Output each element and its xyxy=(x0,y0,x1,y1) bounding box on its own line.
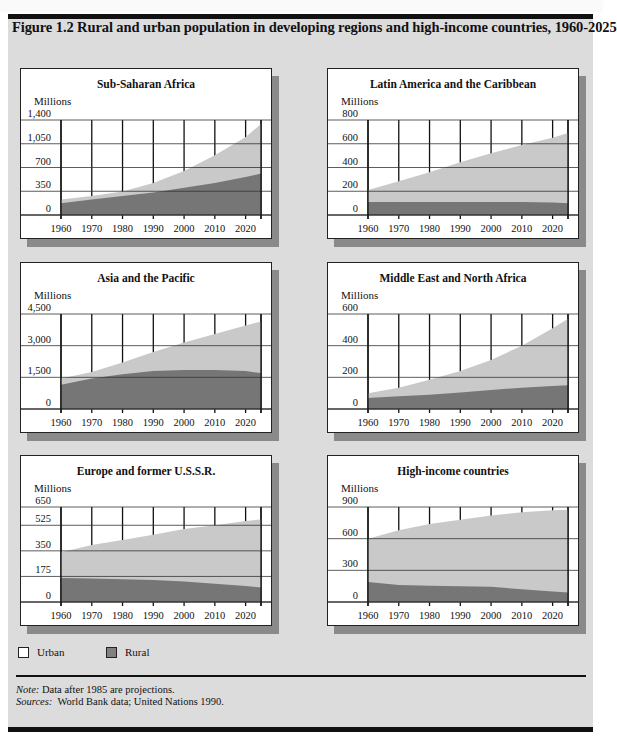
figure-title: Figure 1.2 Rural and urban population in… xyxy=(12,19,617,36)
y-tick-label: 200 xyxy=(342,365,358,376)
x-tick-label: 1980 xyxy=(419,223,440,234)
y-tick-label: 175 xyxy=(35,564,51,575)
sources-line: Sources: World Bank data; United Nations… xyxy=(16,696,224,708)
y-tick-label: 350 xyxy=(35,539,51,550)
x-tick-label: 2000 xyxy=(481,417,502,428)
x-tick-label: 2000 xyxy=(481,223,502,234)
x-tick-label: 2020 xyxy=(542,610,563,621)
x-tick-label: 2010 xyxy=(511,610,532,621)
chart-title: Sub-Saharan Africa xyxy=(21,78,271,90)
y-tick-label: 0 xyxy=(353,397,358,408)
x-tick-label: 2000 xyxy=(174,417,195,428)
sources-text: World Bank data; United Nations 1990. xyxy=(52,696,224,707)
rural-area xyxy=(368,202,568,215)
urban-swatch-icon xyxy=(18,647,29,658)
x-tick-label: 1960 xyxy=(51,610,72,621)
legend-label: Urban xyxy=(37,646,65,658)
y-tick-label: 600 xyxy=(342,302,358,313)
y-tick-label: 300 xyxy=(342,558,358,569)
x-tick-label: 2000 xyxy=(174,610,195,621)
x-tick-label: 1960 xyxy=(358,417,379,428)
y-axis-label: Millions xyxy=(34,482,71,494)
y-tick-label: 0 xyxy=(46,590,51,601)
x-tick-label: 1970 xyxy=(388,223,409,234)
x-tick-label: 1990 xyxy=(143,417,164,428)
x-tick-label: 2020 xyxy=(235,223,256,234)
x-tick-label: 1960 xyxy=(358,610,379,621)
x-tick-label: 1960 xyxy=(51,223,72,234)
sources-label: Sources: xyxy=(16,696,52,707)
legend-label: Rural xyxy=(125,646,149,658)
x-tick-label: 2020 xyxy=(542,417,563,428)
y-tick-label: 200 xyxy=(342,179,358,190)
chart-panel-middle-east-north-africa: 02004006001960197019801990200020102020 M… xyxy=(327,262,579,433)
y-axis-label: Millions xyxy=(341,95,378,107)
x-tick-label: 2010 xyxy=(511,417,532,428)
chart-panel-europe-ussr: 0175350525650196019701980199020002010202… xyxy=(20,455,272,626)
x-tick-label: 1990 xyxy=(450,417,471,428)
x-tick-label: 1990 xyxy=(450,610,471,621)
chart-panel-sub-saharan-africa: 03507001,0501,40019601970198019902000201… xyxy=(20,68,272,239)
note-label: Note: xyxy=(16,684,39,695)
chart-panel-high-income: 03006009001960197019801990200020102020 H… xyxy=(327,455,579,626)
footnote: Note: Data after 1985 are projections. S… xyxy=(16,684,224,708)
x-tick-label: 1980 xyxy=(112,610,133,621)
y-tick-label: 600 xyxy=(342,527,358,538)
x-tick-label: 2010 xyxy=(204,223,225,234)
y-tick-label: 1,500 xyxy=(27,365,51,376)
y-tick-label: 700 xyxy=(35,156,51,167)
y-tick-label: 0 xyxy=(46,203,51,214)
x-tick-label: 2000 xyxy=(174,223,195,234)
x-tick-label: 1970 xyxy=(81,610,102,621)
y-tick-label: 1,050 xyxy=(27,132,51,143)
page-top-margin xyxy=(0,0,603,12)
y-axis-label: Millions xyxy=(34,289,71,301)
x-tick-label: 1970 xyxy=(81,417,102,428)
x-tick-label: 2010 xyxy=(204,417,225,428)
chart-title: Latin America and the Caribbean xyxy=(328,78,578,90)
chart-title: Europe and former U.S.S.R. xyxy=(21,465,271,477)
y-tick-label: 600 xyxy=(342,132,358,143)
y-axis-label: Millions xyxy=(341,289,378,301)
y-tick-label: 0 xyxy=(46,397,51,408)
rural-swatch-icon xyxy=(106,647,117,658)
x-tick-label: 1970 xyxy=(388,610,409,621)
x-tick-label: 2020 xyxy=(235,417,256,428)
divider xyxy=(16,675,586,677)
y-axis-label: Millions xyxy=(34,95,71,107)
y-tick-label: 350 xyxy=(35,179,51,190)
x-tick-label: 1990 xyxy=(143,223,164,234)
y-tick-label: 0 xyxy=(353,203,358,214)
y-tick-label: 4,500 xyxy=(27,302,51,313)
y-tick-label: 900 xyxy=(342,495,358,506)
x-tick-label: 2010 xyxy=(204,610,225,621)
y-tick-label: 800 xyxy=(342,108,358,119)
x-tick-label: 1980 xyxy=(419,610,440,621)
y-axis-label: Millions xyxy=(341,482,378,494)
x-tick-label: 1970 xyxy=(388,417,409,428)
y-tick-label: 3,000 xyxy=(27,334,51,345)
x-tick-label: 1960 xyxy=(358,223,379,234)
x-tick-label: 1980 xyxy=(419,417,440,428)
x-tick-label: 1990 xyxy=(143,610,164,621)
legend-urban: Urban xyxy=(18,646,65,658)
x-tick-label: 2020 xyxy=(235,610,256,621)
y-tick-label: 400 xyxy=(342,156,358,167)
note-line: Note: Data after 1985 are projections. xyxy=(16,684,224,696)
note-text: Data after 1985 are projections. xyxy=(39,684,174,695)
x-tick-label: 1980 xyxy=(112,417,133,428)
x-tick-label: 2010 xyxy=(511,223,532,234)
y-tick-label: 650 xyxy=(35,495,51,506)
x-tick-label: 1970 xyxy=(81,223,102,234)
chart-title: Asia and the Pacific xyxy=(21,272,271,284)
chart-panel-asia-pacific: 01,5003,0004,500196019701980199020002010… xyxy=(20,262,272,433)
legend-rural: Rural xyxy=(106,646,149,658)
y-tick-label: 525 xyxy=(35,513,51,524)
chart-panel-latin-america: 0200400600800196019701980199020002010202… xyxy=(327,68,579,239)
chart-title: Middle East and North Africa xyxy=(328,272,578,284)
y-tick-label: 0 xyxy=(353,590,358,601)
y-tick-label: 1,400 xyxy=(27,108,51,119)
x-tick-label: 2000 xyxy=(481,610,502,621)
x-tick-label: 1990 xyxy=(450,223,471,234)
x-tick-label: 1980 xyxy=(112,223,133,234)
